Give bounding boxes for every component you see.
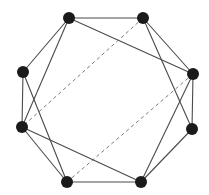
edge-c-e — [141, 74, 193, 182]
node-a — [63, 12, 75, 24]
edge-f-h — [23, 72, 67, 182]
node-f — [61, 176, 73, 188]
edge-a-h — [23, 18, 69, 72]
node-b — [137, 12, 149, 24]
edge-f-g — [22, 127, 67, 182]
nodes-layer — [16, 12, 199, 188]
node-g — [16, 121, 28, 133]
edge-a-c — [69, 18, 193, 74]
graph-diagram — [0, 0, 209, 195]
edge-c-f-dashed — [67, 74, 193, 182]
edge-g-h — [22, 72, 23, 127]
edges-layer — [22, 18, 193, 182]
node-d — [186, 123, 198, 135]
node-c — [187, 68, 199, 80]
edge-e-g — [22, 127, 141, 182]
edge-b-d — [143, 18, 192, 129]
edge-c-d — [192, 74, 193, 129]
node-h — [17, 66, 29, 78]
edge-b-c — [143, 18, 193, 74]
node-e — [135, 176, 147, 188]
edge-d-e — [141, 129, 192, 182]
edge-b-g-dashed — [22, 18, 143, 127]
edge-a-g — [22, 18, 69, 127]
